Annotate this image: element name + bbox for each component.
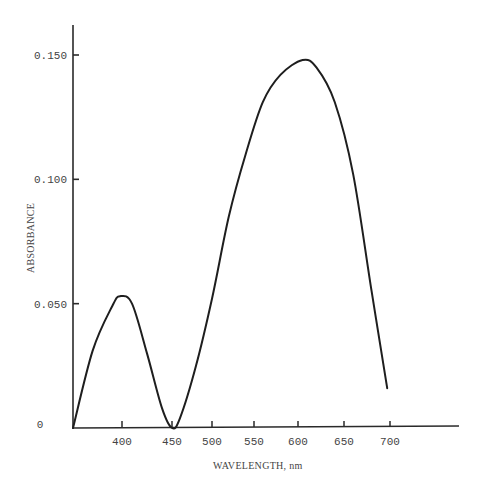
x-tick-label: 450 (162, 436, 182, 448)
y-tick-label: 0.100 (34, 174, 67, 186)
y-tick-label: 0 (37, 419, 44, 431)
x-tick-label: 500 (202, 436, 222, 448)
x-ticks: 400450500550600650700 (112, 421, 400, 448)
x-tick-label: 600 (288, 436, 308, 448)
axes (73, 25, 459, 429)
y-tick-label: 0.150 (34, 50, 67, 62)
absorbance-chart: 00.0500.1000.150 400450500550600650700 W… (0, 0, 477, 486)
x-tick-label: 650 (334, 436, 354, 448)
x-axis-title: WAVELENGTH, nm (213, 460, 303, 471)
x-tick-label: 700 (380, 436, 400, 448)
y-tick-label: 0.050 (34, 299, 67, 311)
x-tick-label: 400 (112, 436, 132, 448)
x-tick-label: 550 (244, 436, 264, 448)
y-axis-title: ABSORBANCE (25, 203, 36, 273)
absorbance-curve (73, 60, 387, 429)
x-axis (73, 426, 459, 428)
